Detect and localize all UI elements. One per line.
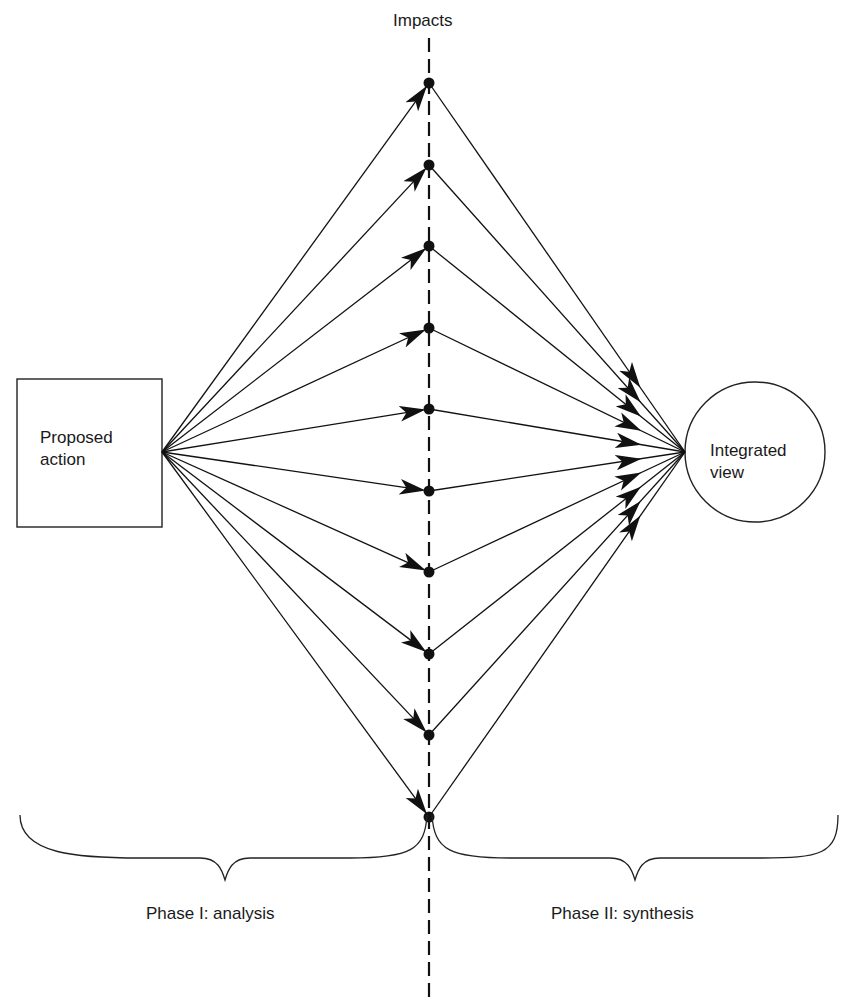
impact-dot (424, 323, 435, 334)
impact-dot (424, 404, 435, 415)
impact-dot (424, 730, 435, 741)
impact-dot (424, 486, 435, 497)
synthesis-edge (429, 452, 685, 735)
analysis-edge (162, 452, 424, 570)
phase-1-brace (20, 815, 427, 880)
analysis-edge (162, 169, 425, 452)
analysis-edge (162, 88, 425, 452)
synthesis-edge (429, 246, 685, 452)
analysis-edge (162, 452, 424, 650)
synthesis-edge (429, 452, 685, 654)
synthesis-edge (429, 328, 685, 452)
integrated-view-label: Integrated view (710, 440, 787, 484)
phase-2-brace (432, 815, 838, 880)
analysis-edge (162, 250, 424, 452)
impact-dot (424, 567, 435, 578)
impact-dot (424, 78, 435, 89)
diagram-canvas (0, 0, 852, 1005)
synthesis-edge (429, 452, 685, 491)
analysis-edge (162, 452, 425, 812)
impact-dot (424, 649, 435, 660)
analysis-edge (162, 452, 423, 490)
edges-group (162, 78, 685, 823)
impacts-label: Impacts (393, 10, 453, 32)
synthesis-edge (429, 409, 685, 452)
impact-dot (424, 241, 435, 252)
phase-1-label: Phase I: analysis (146, 903, 275, 925)
analysis-edge (162, 410, 423, 452)
analysis-edge (162, 331, 424, 452)
phase-2-label: Phase II: synthesis (551, 903, 694, 925)
proposed-action-label: Proposed action (40, 427, 113, 471)
analysis-edge (162, 452, 425, 731)
impact-dot (424, 160, 435, 171)
